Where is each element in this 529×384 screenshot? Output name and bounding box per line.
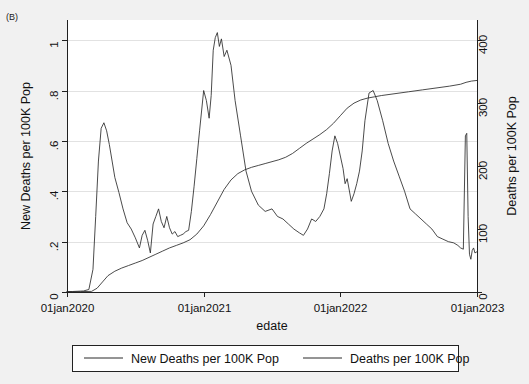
x-axis-title: edate	[256, 319, 287, 333]
y-axis-title: New Deaths per 100K Pop	[19, 82, 33, 230]
legend: New Deaths per 100K Pop Deaths per 100K …	[72, 345, 470, 371]
y2-tick-label-3: 300	[477, 98, 489, 117]
y-tick-label-5: 1	[48, 41, 60, 47]
y2-tick-label-1: 100	[477, 224, 489, 243]
x-tick-label-2: 01jan2022	[314, 302, 368, 314]
plot-area-background	[67, 20, 477, 292]
panel-label: (B)	[6, 12, 18, 22]
y-tick-label-0: 0	[48, 293, 60, 299]
x-tick-label-1: 01jan2021	[178, 302, 232, 314]
y-tick-label-1: .2	[48, 242, 60, 252]
y2-tick-label-4: 400	[477, 35, 489, 54]
chart-figure: (B) 0.2.4.6.81 0100200300400 01jan202001…	[0, 0, 529, 384]
x-tick-label-0: 01jan2020	[41, 302, 95, 314]
legend-label-cumulative-deaths: Deaths per 100K Pop	[350, 352, 470, 366]
y2-tick-label-0: 0	[477, 293, 489, 299]
y2-tick-label-2: 200	[477, 161, 489, 180]
y-tick-label-4: .8	[48, 91, 60, 101]
y-tick-label-3: .6	[48, 141, 60, 151]
legend-label-new-deaths: New Deaths per 100K Pop	[131, 352, 279, 366]
y2-axis-title: Deaths per 100K Pop	[505, 96, 519, 216]
y-tick-label-2: .4	[48, 190, 60, 200]
x-tick-label-3: 01jan2023	[451, 302, 505, 314]
